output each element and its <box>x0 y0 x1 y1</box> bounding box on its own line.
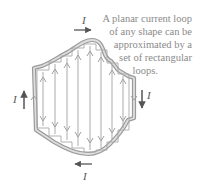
caption-line-2: of any shape can be <box>100 25 192 38</box>
caption-line-4: set of rectangular <box>100 51 192 64</box>
current-label-left: I <box>13 93 17 105</box>
current-label-top: I <box>82 14 86 26</box>
caption-line-5: loops. <box>100 64 192 77</box>
diagram-caption: A planar current loop of any shape can b… <box>100 12 192 77</box>
current-label-bottom: I <box>83 170 87 182</box>
current-label-right: I <box>147 89 151 101</box>
caption-line-3: approximated by a <box>100 38 192 51</box>
caption-line-1: A planar current loop <box>100 12 192 25</box>
